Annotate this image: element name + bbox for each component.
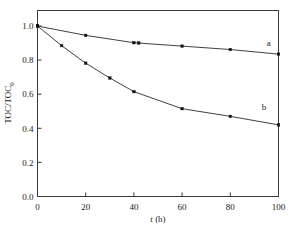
data-point-b-40 bbox=[133, 90, 136, 93]
curve-label-b: b bbox=[262, 102, 267, 112]
y-axis-title-subscript: 0 bbox=[8, 82, 16, 86]
x-tick-label-80: 80 bbox=[226, 202, 236, 212]
svg-text:t (h): t (h) bbox=[150, 214, 165, 224]
y-tick-label-0.0: 0.0 bbox=[22, 192, 34, 202]
x-tick-label-100: 100 bbox=[272, 202, 286, 212]
data-point-a-60 bbox=[181, 45, 184, 48]
data-point-a-80 bbox=[229, 48, 232, 51]
x-axis-title-unit: (h) bbox=[153, 214, 166, 224]
x-axis-title: t (h) bbox=[150, 214, 165, 224]
toc-decay-line-chart: 0.00.20.40.60.81.0 020406080100 ab t (h)… bbox=[0, 0, 301, 228]
data-point-b-20 bbox=[84, 62, 87, 65]
y-tick-label-0.2: 0.2 bbox=[22, 158, 33, 168]
y-tick-label-0.6: 0.6 bbox=[22, 89, 34, 99]
x-tick-label-60: 60 bbox=[178, 202, 188, 212]
y-tick-label-0.8: 0.8 bbox=[22, 55, 34, 65]
chart-background bbox=[0, 0, 301, 228]
data-point-a-40 bbox=[133, 41, 136, 44]
data-point-a-20 bbox=[84, 34, 87, 37]
data-point-b-10 bbox=[60, 44, 63, 47]
y-tick-label-0.4: 0.4 bbox=[22, 124, 34, 134]
data-point-b-0 bbox=[36, 25, 39, 28]
x-tick-label-20: 20 bbox=[81, 202, 91, 212]
data-point-a-100 bbox=[277, 53, 280, 56]
x-tick-label-0: 0 bbox=[35, 202, 40, 212]
curve-label-a: a bbox=[267, 38, 271, 48]
data-point-b-60 bbox=[181, 107, 184, 110]
x-tick-label-40: 40 bbox=[129, 202, 139, 212]
data-point-a-42 bbox=[137, 42, 140, 45]
data-point-b-80 bbox=[229, 115, 232, 118]
data-point-b-100 bbox=[277, 124, 280, 127]
data-point-b-30 bbox=[109, 77, 112, 80]
y-tick-label-1.0: 1.0 bbox=[22, 21, 34, 31]
chart-figure: 0.00.20.40.60.81.0 020406080100 ab t (h)… bbox=[0, 0, 301, 228]
y-axis-title-main: TOC/TOC bbox=[3, 86, 13, 124]
